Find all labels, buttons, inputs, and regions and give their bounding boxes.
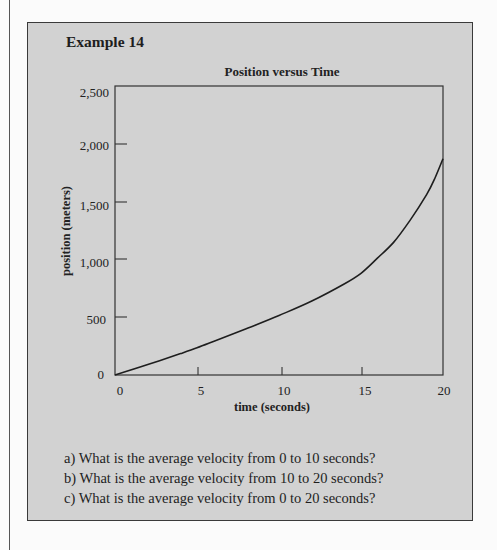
question-a: a) What is the average velocity from 0 t…: [64, 448, 383, 468]
y-tick-label: 1,500: [80, 198, 109, 213]
chart-title: Position versus Time: [224, 64, 339, 79]
question-b: b) What is the average velocity from 10 …: [64, 468, 383, 488]
y-tick-label: 500: [87, 312, 107, 327]
position-curve: [115, 159, 443, 375]
questions-list: a) What is the average velocity from 0 t…: [64, 448, 383, 508]
y-tick-label: 2,000: [80, 138, 109, 153]
y-tick-label: 1,000: [80, 255, 109, 270]
x-axis-ticks: [198, 367, 362, 375]
x-tick-label: 5: [198, 383, 205, 398]
y-axis-label: position (meters): [59, 186, 73, 276]
y-axis-labels: 2,500 2,000 1,500 1,000 500 0: [80, 85, 109, 382]
plot-frame: [115, 86, 443, 375]
x-tick-label: 0: [117, 383, 124, 398]
y-tick-label: 2,500: [80, 85, 109, 100]
question-c: c) What is the average velocity from 0 t…: [64, 488, 383, 508]
x-tick-label: 10: [278, 383, 291, 398]
y-tick-label: 0: [98, 367, 105, 382]
x-axis-label: time (seconds): [234, 400, 310, 414]
x-tick-label: 15: [359, 383, 372, 398]
x-tick-label: 20: [438, 383, 451, 398]
x-axis-labels: 0 5 10 15 20: [117, 383, 451, 398]
y-axis-ticks: [115, 144, 127, 317]
